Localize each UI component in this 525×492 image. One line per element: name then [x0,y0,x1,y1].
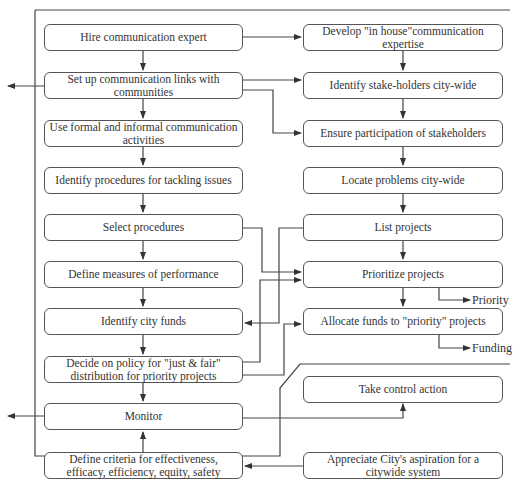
node-decide-policy-distribution: Decide on policy for "just & fair" distr… [44,356,243,383]
node-select-procedures: Select procedures [44,214,243,241]
node-hire-communication-expert: Hire communication expert [44,24,243,51]
node-allocate-funds: Allocate funds to "priority" projects [303,308,503,335]
node-locate-problems: Locate problems city-wide [303,167,503,194]
node-identify-city-funds: Identify city funds [44,308,243,335]
node-take-control-action: Take control action [303,376,503,403]
node-define-measures-performance: Define measures of performance [44,261,243,288]
output-label-funding: Funding [472,341,512,356]
node-use-formal-informal-communication: Use formal and informal communication ac… [44,120,243,147]
node-define-criteria: Define criteria for effectiveness, effic… [44,452,243,479]
output-label-priority: Priority [472,293,509,308]
node-appreciate-city-aspiration: Appreciate City's aspiration for a cityw… [303,452,503,479]
node-monitor: Monitor [44,403,243,430]
node-identify-stakeholders: Identify stake-holders city-wide [303,72,503,99]
node-ensure-participation: Ensure participation of stakeholders [303,120,503,147]
node-prioritize-projects: Prioritize projects [303,261,503,288]
node-list-projects: List projects [303,214,503,241]
node-identify-procedures: Identify procedures for tackling issues [44,167,243,194]
node-develop-in-house-expertise: Develop "in house"communication expertis… [303,24,503,51]
node-set-up-communication-links: Set up communication links with communit… [44,72,243,99]
